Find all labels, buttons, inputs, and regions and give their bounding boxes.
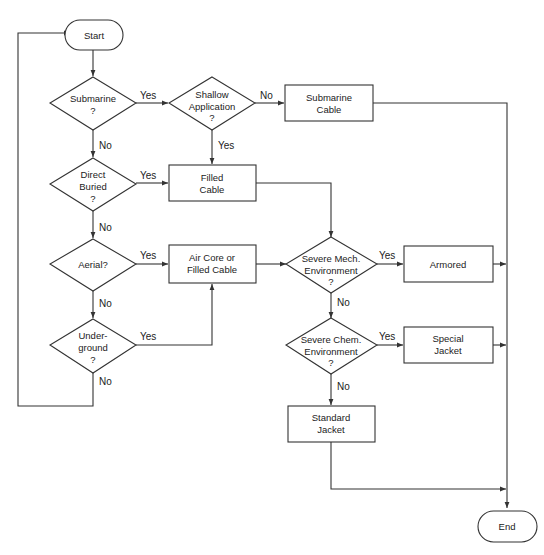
label-aerial-no: No (99, 298, 112, 309)
label-severe-chem-yes: Yes (379, 331, 395, 342)
label-severe-mech-yes: Yes (379, 250, 395, 261)
node-special-jacket-line2: Jacket (434, 345, 462, 356)
node-submarine-cable-line2: Cable (317, 104, 342, 115)
node-armored: Armored (404, 246, 493, 282)
node-air-core-line1: Air Core or (189, 252, 235, 263)
node-submarine-cable: Submarine Cable (285, 85, 373, 121)
label-direct-buried-no: No (99, 222, 112, 233)
node-start-text: Start (84, 30, 104, 41)
node-armored-line1: Armored (430, 259, 466, 270)
label-shallow-no: No (260, 90, 273, 101)
node-submarine-line2: ? (90, 105, 95, 116)
node-filled-cable-line1: Filled (201, 172, 224, 183)
node-shallow-line1: Shallow (195, 89, 228, 100)
node-direct-buried-line3: ? (90, 193, 95, 204)
node-severe-mech-line2: Environment (304, 265, 358, 276)
node-standard-jacket-line1: Standard (312, 412, 351, 423)
edge-filled-cable-severe-mech (256, 183, 331, 237)
node-severe-chem: Severe Chem. Environment ? (286, 318, 377, 374)
node-shallow-line3: ? (209, 112, 214, 123)
node-severe-chem-line2: Environment (304, 346, 358, 357)
node-shallow-line2: Application (189, 101, 235, 112)
edge-standard-jacket-end (331, 442, 506, 489)
node-special-jacket-line1: Special (432, 333, 463, 344)
node-severe-chem-line3: ? (328, 357, 333, 368)
node-standard-jacket-line2: Jacket (317, 424, 345, 435)
node-submarine-cable-line1: Submarine (306, 92, 352, 103)
node-direct-buried-line2: Buried (79, 181, 106, 192)
node-severe-mech-line1: Severe Mech. (302, 253, 361, 264)
node-special-jacket: Special Jacket (404, 327, 493, 363)
flowchart-canvas: Yes No No Yes Yes No Yes No Yes No Yes N… (0, 0, 544, 555)
label-shallow-yes: Yes (218, 140, 234, 151)
label-severe-chem-no: No (337, 381, 350, 392)
node-air-core: Air Core or Filled Cable (169, 245, 256, 283)
node-filled-cable: Filled Cable (169, 165, 256, 201)
node-severe-chem-line1: Severe Chem. (301, 334, 362, 345)
node-start: Start (65, 20, 123, 50)
node-aerial: Aerial? (50, 239, 136, 291)
label-aerial-yes: Yes (140, 250, 156, 261)
edge-submarine-cable-end (373, 103, 507, 508)
node-underground-line3: ? (90, 354, 95, 365)
node-standard-jacket: Standard Jacket (288, 406, 375, 442)
node-air-core-line2: Filled Cable (187, 264, 237, 275)
node-severe-mech-line3: ? (328, 276, 333, 287)
node-end-text: End (499, 521, 516, 532)
label-direct-buried-yes: Yes (140, 170, 156, 181)
label-submarine-no: No (99, 140, 112, 151)
node-underground: Under- ground ? (50, 319, 136, 373)
label-severe-mech-no: No (337, 297, 350, 308)
node-shallow-application: Shallow Application ? (169, 77, 255, 130)
node-submarine-line1: Submarine (70, 93, 116, 104)
label-underground-yes: Yes (140, 331, 156, 342)
node-aerial-line1: Aerial? (78, 259, 108, 270)
node-severe-mech: Severe Mech. Environment ? (286, 237, 377, 293)
node-end: End (478, 511, 537, 542)
node-submarine: Submarine ? (50, 77, 136, 130)
label-underground-no: No (99, 376, 112, 387)
node-direct-buried: Direct Buried ? (50, 158, 136, 211)
node-underground-line2: ground (78, 342, 108, 353)
node-direct-buried-line1: Direct (81, 169, 106, 180)
node-filled-cable-line2: Cable (200, 184, 225, 195)
node-underground-line1: Under- (78, 330, 107, 341)
label-submarine-yes: Yes (140, 90, 156, 101)
